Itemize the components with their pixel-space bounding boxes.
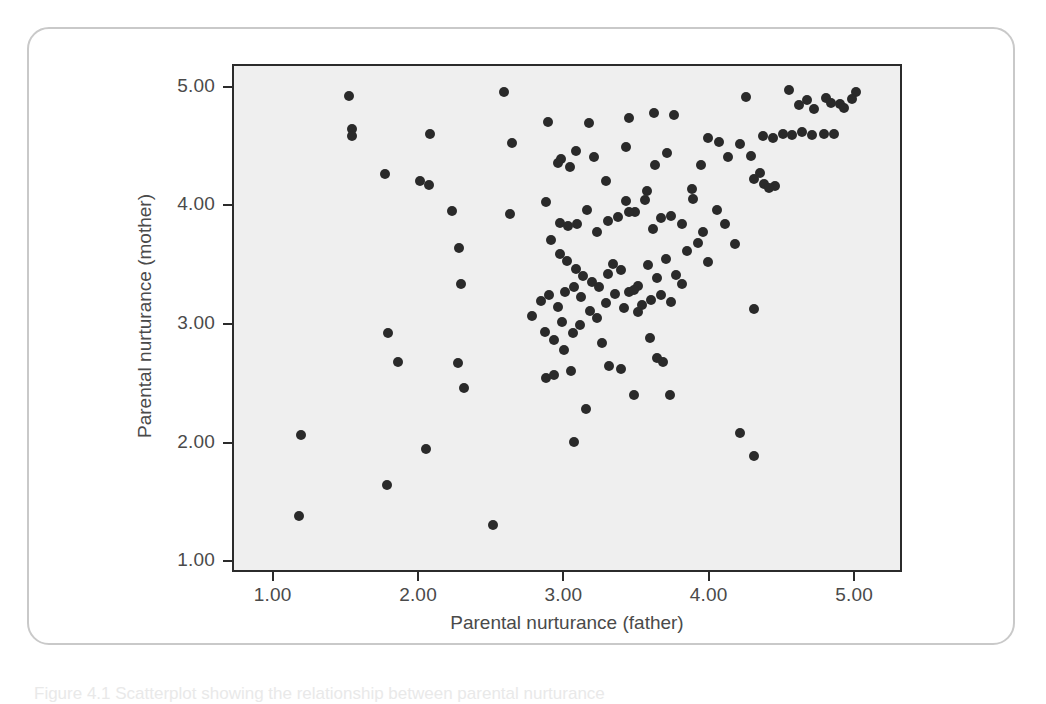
y-tick-mark — [223, 560, 232, 562]
data-point — [749, 304, 759, 314]
data-point — [601, 176, 611, 186]
y-tick-label: 1.00 — [151, 549, 215, 571]
data-point — [572, 219, 582, 229]
data-point — [553, 302, 563, 312]
data-point — [768, 133, 778, 143]
data-point — [755, 168, 765, 178]
x-tick-mark — [853, 572, 855, 581]
data-point — [575, 320, 585, 330]
data-point — [456, 279, 466, 289]
x-tick-mark — [272, 572, 274, 581]
data-point — [847, 94, 857, 104]
data-point — [645, 333, 655, 343]
y-tick-mark — [223, 204, 232, 206]
data-point — [597, 338, 607, 348]
data-point — [549, 335, 559, 345]
data-point — [693, 238, 703, 248]
y-tick-mark — [223, 86, 232, 88]
data-point — [661, 254, 671, 264]
data-point — [746, 151, 756, 161]
data-point — [656, 213, 666, 223]
data-point — [488, 520, 498, 530]
data-point — [662, 148, 672, 158]
data-point — [603, 216, 613, 226]
data-point — [688, 194, 698, 204]
x-tick-label: 5.00 — [814, 584, 894, 606]
data-point — [557, 317, 567, 327]
data-point — [592, 313, 602, 323]
data-point — [809, 104, 819, 114]
data-point — [566, 366, 576, 376]
data-point — [787, 130, 797, 140]
data-point — [802, 95, 812, 105]
y-tick-mark — [223, 442, 232, 444]
data-point — [569, 437, 579, 447]
data-point — [424, 180, 434, 190]
data-point — [741, 92, 751, 102]
data-point — [629, 285, 639, 295]
data-point — [569, 282, 579, 292]
data-point — [703, 257, 713, 267]
data-point — [730, 239, 740, 249]
data-point — [553, 158, 563, 168]
data-point — [629, 390, 639, 400]
data-point — [829, 129, 839, 139]
data-point — [582, 205, 592, 215]
data-point — [619, 303, 629, 313]
data-point — [656, 290, 666, 300]
x-axis-title: Parental nurturance (father) — [232, 612, 902, 634]
data-point — [797, 127, 807, 137]
data-point — [646, 295, 656, 305]
data-point — [565, 162, 575, 172]
data-point — [839, 103, 849, 113]
data-point — [454, 243, 464, 253]
data-point — [764, 183, 774, 193]
data-point — [581, 404, 591, 414]
data-point — [383, 328, 393, 338]
data-point — [640, 195, 650, 205]
data-point — [666, 297, 676, 307]
data-point — [380, 169, 390, 179]
x-tick-label: 4.00 — [669, 584, 749, 606]
data-point — [393, 357, 403, 367]
y-tick-mark — [223, 323, 232, 325]
data-point — [421, 444, 431, 454]
data-point — [603, 269, 613, 279]
y-tick-label: 3.00 — [151, 312, 215, 334]
y-tick-label: 4.00 — [151, 193, 215, 215]
figure-caption: Figure 4.1 Scatterplot showing the relat… — [34, 684, 1024, 704]
data-point — [562, 256, 572, 266]
x-tick-mark — [417, 572, 419, 581]
data-point — [589, 152, 599, 162]
data-point — [604, 361, 614, 371]
data-point — [546, 235, 556, 245]
data-point — [633, 307, 643, 317]
data-point — [665, 390, 675, 400]
data-point — [344, 91, 354, 101]
x-tick-mark — [708, 572, 710, 581]
data-point — [505, 209, 515, 219]
data-point — [703, 133, 713, 143]
x-tick-label: 3.00 — [523, 584, 603, 606]
data-point — [527, 311, 537, 321]
data-point — [714, 137, 724, 147]
data-point — [652, 353, 662, 363]
data-point — [621, 142, 631, 152]
data-point — [571, 146, 581, 156]
data-point — [621, 196, 631, 206]
data-point — [459, 383, 469, 393]
data-point — [677, 219, 687, 229]
data-point — [601, 298, 611, 308]
plot-area — [232, 64, 902, 572]
data-point — [649, 108, 659, 118]
y-tick-label: 2.00 — [151, 431, 215, 453]
data-point — [819, 129, 829, 139]
data-point — [650, 160, 660, 170]
data-point — [723, 152, 733, 162]
data-point — [559, 345, 569, 355]
data-point — [712, 205, 722, 215]
data-point — [499, 87, 509, 97]
data-point — [671, 270, 681, 280]
